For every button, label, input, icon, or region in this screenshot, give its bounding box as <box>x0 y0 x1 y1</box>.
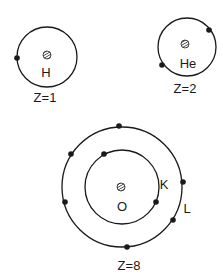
bohr-atom-diagram: H Z=1 He Z=2 K O L Z=8 <box>0 0 223 276</box>
electron-icon <box>116 123 122 129</box>
hydrogen-nucleus-icon <box>43 51 51 59</box>
electron-icon <box>153 199 159 205</box>
electron-icon <box>68 151 74 157</box>
hydrogen-symbol: H <box>41 65 50 80</box>
helium-atom: He Z=2 <box>158 18 216 96</box>
electron-icon <box>206 27 212 33</box>
helium-symbol: He <box>180 56 197 71</box>
electron-icon <box>14 55 20 61</box>
oxygen-k-shell-label: K <box>160 177 169 192</box>
hydrogen-caption: Z=1 <box>34 90 57 105</box>
electron-icon <box>159 62 165 68</box>
hydrogen-atom: H Z=1 <box>14 27 77 105</box>
oxygen-atom: K O L Z=8 <box>62 123 191 273</box>
helium-nucleus-icon <box>181 40 189 48</box>
electron-icon <box>124 244 130 250</box>
helium-caption: Z=2 <box>174 81 197 96</box>
electron-icon <box>180 179 186 185</box>
oxygen-caption: Z=8 <box>118 258 141 273</box>
oxygen-nucleus-icon <box>117 183 125 191</box>
electron-icon <box>101 151 107 157</box>
electron-icon <box>62 199 68 205</box>
oxygen-symbol: O <box>117 199 127 214</box>
oxygen-l-shell-label: L <box>183 201 190 216</box>
electron-icon <box>170 217 176 223</box>
